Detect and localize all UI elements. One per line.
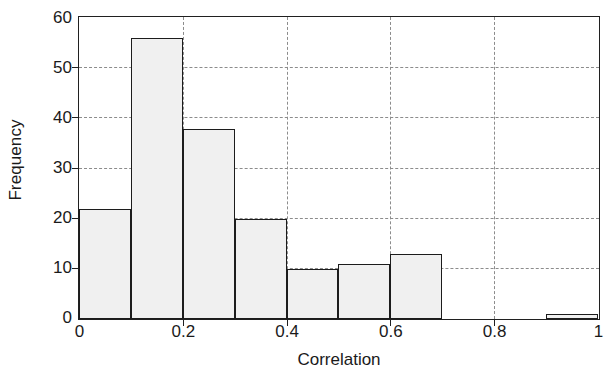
- y-axis-tick-label: 20: [32, 208, 72, 228]
- gridline-vertical: [494, 17, 495, 319]
- histogram-bar: [287, 269, 339, 319]
- x-axis-tick-label: 1: [594, 322, 603, 342]
- y-axis-tick-label: 30: [32, 158, 72, 178]
- y-axis-title-text: Frequency: [6, 119, 26, 200]
- histogram-figure: Frequency 0102030405060 00.20.40.60.81 C…: [0, 0, 615, 377]
- y-axis-tick-label: 40: [32, 108, 72, 128]
- x-axis-title: Correlation: [78, 350, 600, 370]
- y-axis-tick-label: 60: [32, 8, 72, 28]
- y-axis-tick: [72, 268, 79, 269]
- y-axis-tick: [72, 117, 79, 118]
- x-axis-tick-label: 0.4: [275, 322, 299, 342]
- plot-inner: [79, 17, 599, 319]
- x-axis-tick-label: 0: [75, 322, 84, 342]
- histogram-bar: [546, 314, 598, 319]
- x-axis-tick-label: 0.8: [483, 322, 507, 342]
- histogram-bar: [390, 254, 442, 319]
- y-axis-tick: [72, 67, 79, 68]
- y-axis-tick: [72, 218, 79, 219]
- y-axis-tick-label: 50: [32, 58, 72, 78]
- plot-area: [78, 16, 600, 320]
- x-axis-tick-label: 0.6: [379, 322, 403, 342]
- y-axis-tick-label: 10: [32, 258, 72, 278]
- histogram-bar: [183, 129, 235, 320]
- x-axis-tick-labels: 00.20.40.60.81: [0, 322, 615, 348]
- histogram-bar: [235, 219, 287, 319]
- y-axis-tick: [72, 168, 79, 169]
- histogram-bar: [338, 264, 390, 319]
- histogram-bar: [131, 38, 183, 319]
- x-axis-tick-label: 0.2: [172, 322, 196, 342]
- y-axis-tick-labels: 0102030405060: [28, 0, 72, 377]
- histogram-bar: [79, 209, 131, 319]
